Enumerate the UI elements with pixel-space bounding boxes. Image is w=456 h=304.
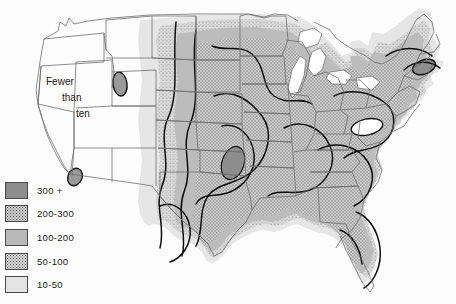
legend-swatch-10-50 [5,276,28,293]
legend-swatch-100-200 [5,229,28,246]
legend-swatch-300plus [5,182,28,199]
legend-item-300plus[interactable]: 300 + [5,181,63,200]
legend-item-10-50[interactable]: 10-50 [5,275,63,294]
legend-label-300plus: 300 + [37,185,63,196]
legend-label-10-50: 10-50 [37,279,63,290]
map-legend: 300 + 200-300 100-200 50-100 10-50 [0,176,120,302]
map-figure: Fewer than ten 300 + 200-300 100-200 50-… [0,0,456,304]
legend-label-100-200: 100-200 [37,232,74,243]
inland-note: Fewer than ten [46,74,116,122]
inland-note-line2: than [46,90,116,106]
legend-item-50-100[interactable]: 50-100 [5,252,68,271]
legend-label-50-100: 50-100 [37,256,68,267]
inland-note-line1: Fewer [46,74,116,90]
legend-item-100-200[interactable]: 100-200 [5,228,74,247]
legend-item-200-300[interactable]: 200-300 [5,204,74,223]
map-base-layer [65,8,444,284]
legend-swatch-50-100 [5,253,28,270]
inland-note-line3: ten [46,106,116,122]
legend-swatch-200-300 [5,205,28,222]
legend-label-200-300: 200-300 [37,208,74,219]
